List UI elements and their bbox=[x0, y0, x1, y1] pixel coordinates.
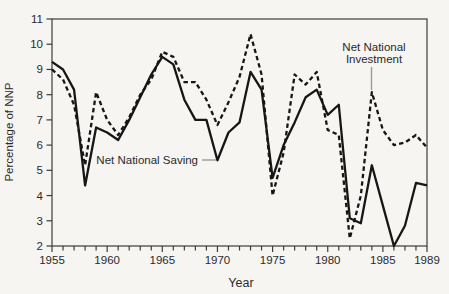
x-tick-label: 1955 bbox=[39, 254, 65, 266]
y-axis-title: Percentage of NNP bbox=[3, 82, 15, 181]
x-axis-ticks bbox=[52, 246, 427, 252]
x-axis-tick-labels: 19551960196519701975198019851989 bbox=[39, 254, 440, 266]
y-axis-tick-labels: 234567891011 bbox=[30, 13, 43, 252]
figure: 19551960196519701975198019851989 2345678… bbox=[0, 0, 449, 294]
x-tick-label: 1989 bbox=[414, 254, 440, 266]
net-national-saving-line bbox=[52, 57, 427, 246]
investment-annotation-label-line2: Investment bbox=[346, 53, 403, 65]
x-axis-title: Year bbox=[228, 276, 253, 290]
investment-annotation-label-line1: Net National bbox=[342, 41, 405, 53]
y-tick-label: 9 bbox=[37, 63, 43, 75]
y-tick-label: 2 bbox=[37, 240, 43, 252]
y-tick-label: 11 bbox=[31, 13, 43, 25]
y-tick-label: 10 bbox=[30, 38, 43, 50]
x-tick-label: 1980 bbox=[315, 254, 341, 266]
x-tick-label: 1970 bbox=[205, 254, 231, 266]
y-tick-label: 8 bbox=[37, 89, 43, 101]
y-tick-label: 7 bbox=[37, 114, 43, 126]
chart-canvas: 19551960196519701975198019851989 2345678… bbox=[0, 0, 449, 294]
x-tick-label: 1965 bbox=[149, 254, 175, 266]
x-tick-label: 1975 bbox=[260, 254, 286, 266]
x-tick-label: 1960 bbox=[94, 254, 120, 266]
y-tick-label: 3 bbox=[37, 215, 43, 227]
y-tick-label: 6 bbox=[37, 139, 43, 151]
y-tick-label: 5 bbox=[37, 164, 43, 176]
x-tick-label: 1985 bbox=[370, 254, 396, 266]
saving-annotation-label: Net National Saving bbox=[96, 154, 198, 166]
y-tick-label: 4 bbox=[37, 190, 44, 202]
y-axis-ticks bbox=[47, 19, 53, 246]
